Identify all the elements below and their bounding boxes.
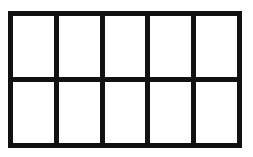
cell-r2-c2 — [59, 82, 100, 143]
cell-r1-c2 — [59, 16, 100, 77]
cell-r2-c1 — [13, 82, 54, 143]
ten-frame-grid — [8, 11, 242, 148]
cell-r2-c5 — [196, 82, 237, 143]
cell-r2-c4 — [150, 82, 191, 143]
cell-r2-c3 — [105, 82, 146, 143]
cell-r1-c4 — [150, 16, 191, 77]
cell-r1-c3 — [105, 16, 146, 77]
cell-r1-c5 — [196, 16, 237, 77]
cell-r1-c1 — [13, 16, 54, 77]
